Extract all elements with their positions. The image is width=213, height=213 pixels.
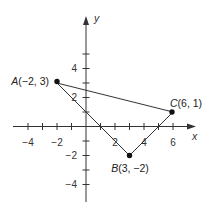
y-tick-label: 4 bbox=[71, 63, 77, 74]
x-tick-label: −4 bbox=[22, 137, 34, 148]
y-axis bbox=[83, 16, 89, 202]
y-tick-label: −2 bbox=[66, 150, 78, 161]
point-a-coords: (−2, 3) bbox=[18, 75, 49, 87]
x-tick-labels: −4 −2 2 4 6 bbox=[22, 137, 176, 148]
point-a bbox=[54, 79, 59, 84]
segment-ab bbox=[57, 83, 130, 156]
point-a-name: A bbox=[10, 75, 18, 87]
segment-bc bbox=[130, 112, 174, 156]
x-tick-label: 6 bbox=[170, 137, 176, 148]
x-axis bbox=[13, 124, 196, 130]
x-axis-arrow-icon bbox=[187, 124, 196, 130]
coordinate-plane-diagram: −4 −2 2 4 6 4 2 −2 −4 x y A(−2, 3) B(3, … bbox=[0, 0, 213, 213]
y-axis-arrow-icon bbox=[83, 16, 89, 25]
point-b bbox=[127, 153, 132, 158]
point-c-label: C(6, 1) bbox=[170, 97, 202, 109]
point-b-coords: (3, −2) bbox=[118, 162, 149, 174]
y-tick-label: −4 bbox=[66, 179, 78, 190]
point-c bbox=[169, 109, 174, 114]
point-b-label: B(3, −2) bbox=[111, 162, 149, 174]
x-tick-label: −2 bbox=[51, 137, 63, 148]
y-axis-label: y bbox=[93, 12, 100, 24]
point-a-label: A(−2, 3) bbox=[10, 75, 49, 87]
point-b-name: B bbox=[111, 162, 118, 174]
x-axis-label: x bbox=[191, 130, 198, 142]
point-c-coords: (6, 1) bbox=[178, 97, 203, 109]
